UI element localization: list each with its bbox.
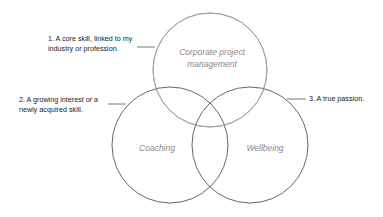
label-coaching: Coaching [139,142,175,154]
label-wellbeing: Wellbeing [246,142,283,154]
annotation-1-line-2: industry or profession. [48,44,132,54]
annotation-3: 3. A true passion. [309,94,364,104]
annotation-2: 2. A growing interest or a newly acquire… [19,95,98,115]
label-coaching-text: Coaching [139,142,175,154]
annotation-2-line-1: 2. A growing interest or a [19,95,98,105]
annotation-1-line-1: 1. A core skill, linked to my [48,34,132,44]
label-top-line-2: management [179,58,245,70]
annotation-2-line-2: newly acquired skill. [19,105,98,115]
annotation-1: 1. A core skill, linked to my industry o… [48,34,132,54]
label-wellbeing-text: Wellbeing [246,142,283,154]
label-top-line-1: Corporate project [179,46,245,58]
circle-overlay-top [153,13,267,127]
label-corporate-project-management: Corporate project management [179,46,245,70]
annotation-3-line-1: 3. A true passion. [309,94,364,104]
circle-corporate-project-management [153,13,267,127]
